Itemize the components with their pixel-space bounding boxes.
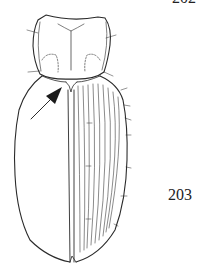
pronotum <box>27 15 116 79</box>
figure-number-202: 202 <box>172 0 196 6</box>
beetle-illustration <box>0 0 210 270</box>
figure-number-203: 203 <box>168 187 192 203</box>
figure-panel: 202 203 <box>0 0 210 270</box>
elytra <box>15 76 132 262</box>
